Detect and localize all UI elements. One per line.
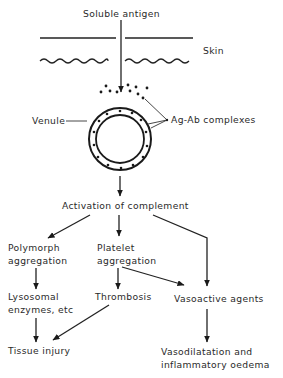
immune-complex-flow-diagram: Soluble antigen Skin — [0, 0, 283, 378]
skin-layer — [40, 38, 193, 63]
complexes-pointers — [145, 99, 168, 128]
label-lysosomal: Lysosomal — [8, 291, 59, 302]
label-venule: Venule — [32, 115, 65, 126]
label-vasoactive-agents: Vasoactive agents — [174, 293, 264, 304]
venule-vessel — [89, 108, 151, 170]
label-tissue-injury: Tissue injury — [7, 345, 71, 356]
label-thrombosis: Thrombosis — [94, 291, 152, 302]
label-polymorph: Polymorph — [8, 242, 60, 253]
arrow-to-polymorph — [48, 215, 90, 238]
label-platelet: Platelet — [97, 242, 135, 253]
label-soluble-antigen: Soluble antigen — [83, 8, 160, 19]
label-platelet-aggregation: aggregation — [97, 255, 156, 266]
label-skin: Skin — [203, 45, 224, 56]
label-inflammatory-oedema: inflammatory oedema — [161, 359, 270, 370]
label-activation-of-complement: Activation of complement — [62, 200, 189, 211]
label-ag-ab-complexes: Ag-Ab complexes — [171, 114, 256, 125]
diagram-canvas: Soluble antigen Skin — [0, 0, 283, 378]
label-lysosomal-enzymes: enzymes, etc — [8, 304, 73, 315]
label-polymorph-aggregation: aggregation — [8, 255, 67, 266]
arrow-platelet-to-vasoactive — [122, 267, 184, 285]
arrow-to-vasoactive — [153, 215, 207, 286]
antigen-particles — [100, 84, 149, 100]
label-vasodilatation: Vasodilatation and — [161, 346, 253, 357]
